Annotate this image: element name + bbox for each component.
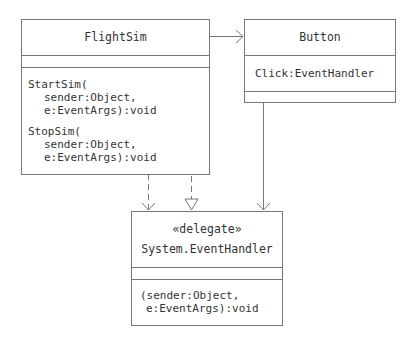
class-button: Button Click:EventHandler [244,19,396,103]
operations-compartment [245,91,395,102]
operation-startsim: StartSim( [28,78,88,91]
dependency-flightsim-eventhandler [142,174,155,210]
class-eventhandler: «delegate» System.EventHandler (sender:O… [131,211,283,326]
operation-startsim-param1: sender:Object, [44,91,137,104]
operations-compartment: StartSim( sender:Object, e:EventArgs):vo… [22,67,209,174]
association-flightsim-button [209,30,243,43]
operation-stopsim-param1: sender:Object, [44,138,137,151]
stereotype: «delegate» [132,222,282,236]
operation-signature-line2: e:EventArgs):void [146,302,259,315]
attributes-compartment: Click:EventHandler [245,55,395,91]
operation-signature-line1: (sender:Object, [140,289,239,302]
operation-startsim-param2: e:EventArgs):void [44,104,157,117]
class-flightsim: FlightSim StartSim( sender:Object, e:Eve… [21,19,210,175]
attributes-compartment [22,55,209,67]
attribute-click: Click:EventHandler [255,67,374,80]
operation-stopsim-param2: e:EventArgs):void [44,151,157,164]
attributes-compartment [132,267,282,279]
operation-stopsim: StopSim( [28,125,81,138]
class-name: FlightSim [22,30,209,44]
class-name: System.EventHandler [132,242,282,256]
class-name: Button [245,30,395,44]
association-button-eventhandler [257,102,270,210]
operations-compartment: (sender:Object, e:EventArgs):void [132,279,282,325]
